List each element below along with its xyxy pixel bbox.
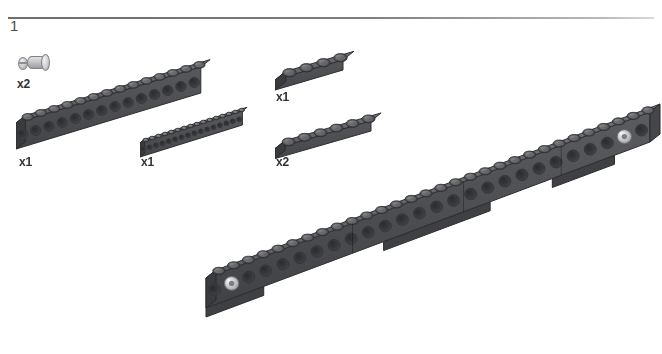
instruction-page: 1 x2 x1 x1 x1 x2 bbox=[0, 0, 662, 354]
assembly-illustration bbox=[0, 0, 662, 354]
assembly-surface bbox=[0, 0, 662, 354]
